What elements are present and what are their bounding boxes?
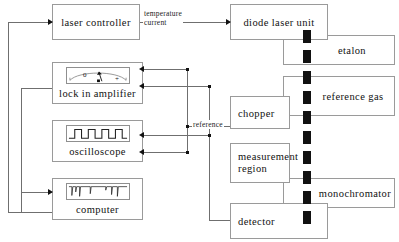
block-reference-gas[interactable]: reference gas	[283, 76, 395, 116]
arrow-to-lockin-reference	[139, 66, 144, 72]
wire-reference-bus	[187, 69, 188, 152]
meter-icon	[67, 68, 129, 83]
block-diagram-canvas: temperature current reference laser cont…	[0, 0, 399, 242]
wire-left-inner-bus	[21, 88, 22, 212]
block-label-measurement-region: measurement region	[238, 151, 287, 175]
junction-refbus-top	[186, 68, 189, 71]
beam-segment	[303, 171, 311, 184]
meter-plus-label: +	[115, 75, 119, 84]
arrow-to-diode-laser-unit	[226, 19, 231, 25]
arrow-to-lockin-signal	[139, 83, 144, 89]
block-measurement-region[interactable]: measurement region	[230, 143, 290, 183]
edge-label-reference: reference	[192, 120, 224, 129]
block-label-laser-controller: laser controller	[53, 17, 139, 29]
wire-detector-to-signalbus	[209, 220, 230, 221]
junction-signalbus-mid	[208, 134, 211, 137]
beam-segment	[303, 91, 311, 104]
wire-left-outer-bus	[8, 22, 9, 212]
wire-lockin-to-inner-bus	[21, 88, 52, 89]
block-diode-laser-unit[interactable]: diode laser unit	[230, 4, 328, 40]
wire-refbus-to-oscilloscope-bot	[143, 152, 188, 153]
wire-signalbus-to-lockin	[143, 86, 209, 87]
block-lock-in-amplifier[interactable]: 0 + lock in amplifier	[52, 62, 143, 104]
beam-segment	[303, 30, 311, 43]
laser-beam	[303, 30, 311, 235]
block-label-reference-gas: reference gas	[312, 91, 394, 103]
block-label-lock-in-amplifier: lock in amplifier	[53, 88, 142, 100]
beam-segment	[303, 131, 311, 144]
beam-segment	[303, 111, 311, 124]
wire-refbus-to-lockin-top	[143, 69, 188, 70]
block-oscilloscope[interactable]: oscilloscope	[52, 120, 143, 162]
block-detector[interactable]: detector	[230, 203, 328, 239]
block-label-etalon: etalon	[310, 45, 394, 57]
wire-detector-signal-bus	[209, 86, 210, 220]
oscilloscope-waveform-display	[66, 125, 130, 142]
junction-refbus-bottom	[186, 151, 189, 154]
computer-spectrum-display	[66, 183, 130, 200]
edge-label-temperature-current: temperature current	[143, 9, 183, 28]
square-wave-icon	[67, 126, 129, 141]
arrow-to-oscilloscope-signal	[139, 132, 144, 138]
meter-zero-label: 0	[83, 71, 87, 80]
wire-signalbus-to-oscilloscope	[143, 135, 209, 136]
arrow-to-computer	[48, 189, 53, 195]
block-chopper[interactable]: chopper	[230, 96, 290, 129]
lock-in-meter-display	[66, 67, 130, 84]
block-laser-controller[interactable]: laser controller	[52, 4, 140, 40]
block-label-computer: computer	[53, 204, 142, 216]
junction-reference	[186, 125, 189, 128]
arrow-to-laser-controller	[48, 19, 53, 25]
beam-segment	[303, 50, 311, 63]
beam-segment	[303, 71, 311, 84]
block-label-monochromator: monochromator	[316, 188, 394, 200]
beam-segment	[303, 211, 311, 224]
absorption-spectrum-icon	[67, 184, 129, 199]
block-label-chopper: chopper	[238, 108, 287, 120]
beam-segment	[303, 151, 311, 164]
wire-bus-to-controller	[8, 22, 52, 23]
junction-signalbus-top	[208, 85, 211, 88]
block-label-diode-laser-unit: diode laser unit	[231, 17, 327, 29]
beam-segment	[303, 191, 311, 204]
wire-computer-to-bus	[8, 212, 52, 213]
block-label-oscilloscope: oscilloscope	[53, 146, 142, 158]
block-label-detector: detector	[238, 216, 325, 228]
arrow-to-oscilloscope-reference	[139, 149, 144, 155]
block-computer[interactable]: computer	[52, 178, 143, 220]
